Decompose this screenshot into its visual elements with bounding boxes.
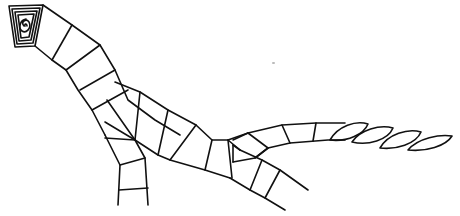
head-spiral-icon — [9, 5, 43, 47]
dinosaur-sketch — [0, 0, 460, 216]
speck — [272, 62, 275, 64]
tail — [228, 123, 452, 162]
hind-leg — [230, 145, 308, 210]
front-leg — [105, 135, 148, 205]
neck — [35, 5, 180, 135]
drawing-canvas — [0, 0, 460, 216]
